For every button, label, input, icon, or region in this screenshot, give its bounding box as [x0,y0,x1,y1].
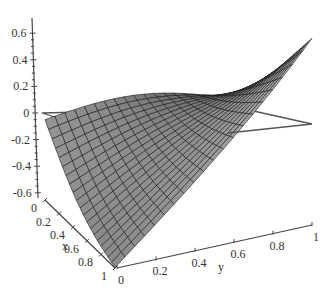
z-axis-line [32,18,38,198]
y-tick-label: 0.8 [270,239,285,253]
x-tick-label: 1 [101,269,107,283]
z-tick-label: 0 [23,106,29,120]
z-tick-label: -0.2 [11,133,30,147]
x-axis-title: x [62,239,68,253]
z-tick-label: 0.4 [12,53,27,67]
x-tick-label: 0 [31,201,37,215]
y-tick-label: 0.2 [153,264,168,278]
z-tick-label: -0.6 [13,186,32,200]
x-tick-label: 0.8 [78,255,93,269]
y-tick-label: 0.6 [231,247,246,261]
z-tick-label: 0.6 [12,26,27,40]
z-tick-label: 0.2 [13,79,28,93]
z-tick-label: -0.4 [12,159,31,173]
y-axis-title: y [218,260,224,274]
z-axis: 0.60.40.20-0.2-0.4-0.6 [11,18,41,200]
y-tick-label: 0.4 [192,256,207,270]
y-tick-label: 1 [313,230,319,244]
surface-mesh [45,38,312,267]
x-tick-label: 0.2 [36,215,51,229]
y-tick-label: 0 [118,273,124,287]
surface-plot: 0.60.40.20-0.2-0.4-0.6 00.20.40.60.81 00… [0,0,332,293]
